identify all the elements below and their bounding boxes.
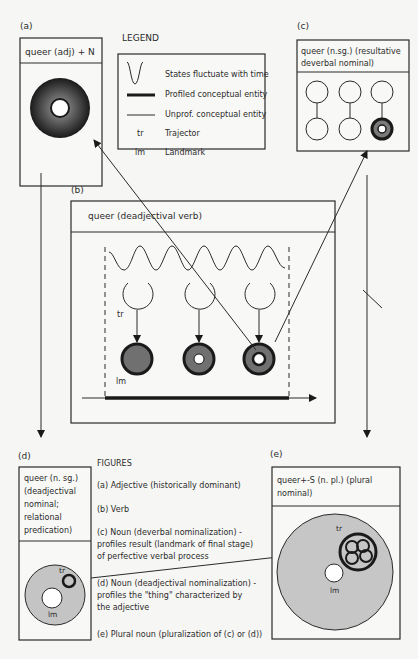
panel-c: (c) queer (n.sg.) (resultative deverbal … [297, 21, 409, 151]
figure-item: (c) Noun (deverbal nominalization) - [97, 528, 242, 537]
panel-d-title: nominal; [24, 500, 59, 509]
trajector-label: tr [336, 524, 343, 533]
panel-a-title: queer (adj) + N [25, 47, 95, 57]
figure-item: the adjective [97, 603, 149, 612]
panel-a: (a) queer (adj) + N [20, 21, 102, 186]
panel-c-title: deverbal nominal) [301, 59, 374, 68]
legend: LEGEND States fluctuate with time Profil… [118, 33, 269, 157]
panel-c-tag: (c) [297, 21, 309, 31]
landmark-label: lm [48, 610, 57, 619]
landmark-label: lm [330, 586, 339, 595]
legend-item-label: Landmark [165, 148, 205, 157]
figure-item: of perfective verbal process [97, 552, 209, 561]
panel-e-tag: (e) [270, 449, 283, 459]
legend-heading: LEGEND [122, 33, 159, 43]
landmark-icons [122, 344, 274, 374]
panel-b: (b) queer (deadjectival verb) tr lm [71, 185, 335, 423]
figure-item: (a) Adjective (historically dominant) [97, 481, 241, 490]
panel-d-title: predication) [24, 526, 72, 535]
tick-mark [363, 290, 382, 308]
legend-symbol: tr [137, 129, 144, 138]
legend-item-label: Profiled conceptual entity [165, 90, 268, 99]
panel-e-title: queer+-S (n. pl.) (plural [277, 476, 372, 485]
figure-item: profiles result (landmark of final stage… [97, 540, 253, 549]
panel-b-title: queer (deadjectival verb) [88, 211, 202, 221]
figure-item: (b) Verb [97, 505, 129, 514]
panel-e-title: nominal) [277, 489, 312, 498]
legend-item-label: Trajector [164, 129, 200, 138]
panel-c-title: queer (n.sg.) (resultative [301, 47, 401, 56]
panel-d-title: queer (n. sg.) [24, 474, 78, 483]
figure-item: (d) Noun (deadjectival nominalization) - [97, 579, 256, 588]
panel-a-tag: (a) [20, 21, 33, 31]
figures-list: FIGURES (a) Adjective (historically domi… [97, 459, 262, 639]
figure-item: (e) Plural noun (pluralization of (c) or… [97, 630, 262, 639]
landmark-label: lm [116, 377, 126, 386]
legend-symbol: lm [135, 148, 145, 157]
panel-d-title: relational [24, 513, 62, 522]
legend-item-label: States fluctuate with time [165, 70, 269, 79]
panel-e: (e) queer+-S (n. pl.) (plural nominal) t… [270, 449, 400, 639]
legend-item-label: Unprof. conceptual entity [165, 110, 266, 119]
panel-b-tag: (b) [71, 185, 84, 195]
diagram-canvas: (a) queer (adj) + N LEGEND States fluctu… [0, 0, 418, 659]
panel-b-box [71, 201, 335, 423]
figure-item: profiles the "thing" characterized by [97, 591, 242, 600]
trajector-label: tr [117, 310, 124, 319]
panel-d-tag: (d) [18, 451, 31, 461]
panel-d-title: (deadjectival [24, 487, 76, 496]
panel-d: (d) queer (n. sg.) (deadjectival nominal… [18, 451, 91, 640]
figures-heading: FIGURES [97, 459, 132, 468]
trajector-label: tr [59, 566, 66, 575]
